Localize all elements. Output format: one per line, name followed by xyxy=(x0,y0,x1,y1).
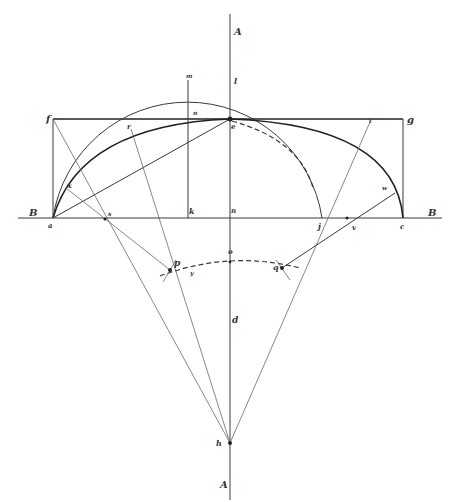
label-s: s xyxy=(108,210,112,217)
label-y: y xyxy=(189,269,194,277)
label-a-bottom: A xyxy=(219,479,228,490)
line-r-h xyxy=(131,129,230,443)
point-e xyxy=(228,117,233,122)
label-w: w xyxy=(382,184,388,191)
label-f: f xyxy=(45,113,52,124)
label-x: x xyxy=(66,180,72,190)
arc-dashed-upper xyxy=(232,121,313,188)
label-c: c xyxy=(400,222,405,231)
label-l: l xyxy=(234,76,237,86)
line-f-h xyxy=(53,119,230,443)
point-v xyxy=(345,216,348,219)
point-o xyxy=(229,261,232,264)
label-b-right: B xyxy=(427,207,436,218)
label-center: n xyxy=(231,206,236,215)
diagram-canvas: A A B B a c e f g h j k l m n n o p q r … xyxy=(0,0,455,502)
label-p: p xyxy=(174,258,181,268)
point-q xyxy=(280,266,284,270)
label-t: t xyxy=(369,117,372,124)
line-x-p xyxy=(66,188,170,270)
point-h xyxy=(228,441,232,445)
label-o: o xyxy=(228,247,233,256)
label-h: h xyxy=(216,438,222,448)
point-p xyxy=(168,268,172,272)
arc-right-ellipse xyxy=(230,119,403,218)
label-k: k xyxy=(189,206,195,216)
label-a-top: A xyxy=(233,26,242,37)
point-s xyxy=(103,217,106,220)
label-m: m xyxy=(186,72,192,79)
label-d: d xyxy=(232,315,239,325)
label-b-left: B xyxy=(28,207,37,218)
label-v: v xyxy=(352,223,357,232)
label-q: q xyxy=(273,262,279,272)
label-n: n xyxy=(193,109,197,116)
label-e: e xyxy=(231,122,236,131)
label-g: g xyxy=(407,114,414,125)
line-t-h xyxy=(230,122,370,443)
construction-drawing: A A B B a c e f g h j k l m n n o p q r … xyxy=(0,0,455,502)
label-a: a xyxy=(48,221,53,230)
line-q-w xyxy=(282,193,395,268)
label-j: j xyxy=(316,221,321,231)
